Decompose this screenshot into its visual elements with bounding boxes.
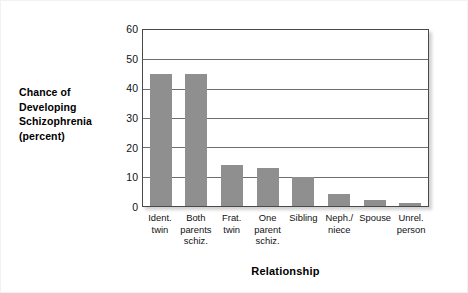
y-tick-label-10: 10 xyxy=(114,172,138,182)
y-tick-label-30: 30 xyxy=(114,113,138,123)
y-tick-label-60: 60 xyxy=(114,24,138,34)
bar-ident-twin xyxy=(150,74,172,206)
x-tick-label-line: Frat. xyxy=(214,212,250,224)
y-tick-label-50: 50 xyxy=(114,54,138,64)
bar-unrel-person xyxy=(399,203,421,206)
bar-both-parents-schiz xyxy=(185,74,207,206)
x-tick-label-unrel-person: Unrel.person xyxy=(393,212,429,247)
x-tick-label-spouse: Spouse xyxy=(357,212,393,247)
x-tick-label-line: Unrel. xyxy=(393,212,429,224)
x-tick-label-line: parent xyxy=(250,224,286,236)
x-tick-label-line: Sibling xyxy=(286,212,322,224)
x-tick-label-both-parents-schiz: Bothparentsschiz. xyxy=(178,212,214,247)
bar-slot xyxy=(143,30,179,206)
x-tick-label-line: Both xyxy=(178,212,214,224)
bar-slot xyxy=(286,30,322,206)
x-tick-label-line: Neph./ xyxy=(321,212,357,224)
y-tick-label-20: 20 xyxy=(114,143,138,153)
bar-slot xyxy=(392,30,428,206)
bar-slot xyxy=(250,30,286,206)
bar-spouse xyxy=(364,200,386,206)
y-tick-label-0: 0 xyxy=(114,202,138,212)
bar-frat-twin xyxy=(221,165,243,206)
x-axis-tick-labels: Ident.twinBothparentsschiz.Frat.twinOnep… xyxy=(142,212,429,247)
y-axis-tick-labels: 6050403020100 xyxy=(114,29,138,207)
x-tick-label-ident-twin: Ident.twin xyxy=(142,212,178,247)
x-tick-label-line: person xyxy=(393,224,429,236)
x-tick-label-frat-twin: Frat.twin xyxy=(214,212,250,247)
plot-area xyxy=(143,30,428,206)
bar-one-parent-schiz xyxy=(257,168,279,206)
x-tick-label-one-parent-schiz: Oneparentschiz. xyxy=(250,212,286,247)
plot-frame xyxy=(142,29,429,207)
x-tick-label-line: One xyxy=(250,212,286,224)
x-tick-label-line: twin xyxy=(214,224,250,236)
x-tick-label-sibling: Sibling xyxy=(286,212,322,247)
x-tick-label-line: Spouse xyxy=(357,212,393,224)
x-tick-label-line: niece xyxy=(321,224,357,236)
x-axis-title: Relationship xyxy=(142,265,429,277)
bar-slot xyxy=(179,30,215,206)
x-tick-label-neph-niece: Neph./niece xyxy=(321,212,357,247)
y-tick-label-40: 40 xyxy=(114,83,138,93)
bar-slot xyxy=(214,30,250,206)
bar-neph-niece xyxy=(328,194,350,206)
x-tick-label-line: schiz. xyxy=(250,235,286,247)
x-tick-label-line: twin xyxy=(142,224,178,236)
x-tick-label-line: schiz. xyxy=(178,235,214,247)
x-tick-label-line: parents xyxy=(178,224,214,236)
bar-chart-figure: Chance of Developing Schizophrenia (perc… xyxy=(0,0,468,293)
bar-slot xyxy=(321,30,357,206)
x-tick-label-line: Ident. xyxy=(142,212,178,224)
bar-sibling xyxy=(292,177,314,206)
bar-slot xyxy=(357,30,393,206)
